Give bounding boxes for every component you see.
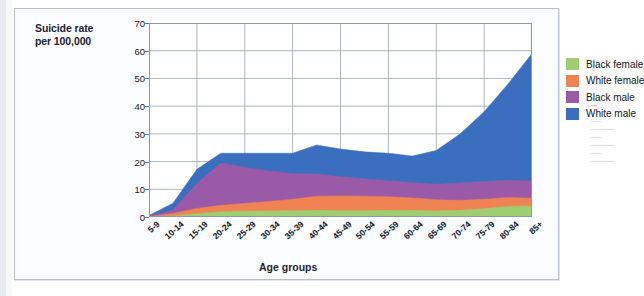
legend-label: Black female [586,59,643,70]
legend-swatch [566,75,579,87]
y-axis-ticks: 010203040506070 [115,23,145,217]
y-axis-title: Suicide rate per 100,000 [35,22,127,47]
legend-swatch [566,91,579,103]
x-tick-label: 50-54 [354,219,377,241]
legend-label: White female [586,75,644,86]
x-axis-ticks: 5-910-1415-1920-2425-2930-3435-3940-4445… [149,217,532,259]
margin-artifact-line [591,137,601,138]
legend-item: White male [566,106,644,123]
x-tick-label: 65-69 [426,219,449,241]
margin-artifact-line [591,153,601,154]
x-tick-label: 80-84 [498,219,521,241]
x-tick-label: 60-64 [402,219,425,241]
x-tick-label: 30-34 [258,219,281,241]
y-tick-label: 0 [119,212,145,223]
stacked-area-series [149,23,532,217]
margin-artifact-line [591,129,615,130]
x-tick-label: 5-9 [146,219,162,235]
legend-swatch [566,58,579,70]
y-tick-label: 70 [119,18,145,29]
y-axis-title-line2: per 100,000 [35,35,127,48]
legend-item: Black female [566,56,644,73]
legend-label: White male [586,108,636,119]
margin-artifact-line [591,145,615,146]
legend-item: Black male [566,89,644,106]
x-tick-label: 40-44 [306,219,329,241]
y-tick-label: 50 [119,73,145,84]
legend-item: White female [566,73,644,90]
x-tick-label: 55-59 [378,219,401,241]
y-tick-label: 20 [119,156,145,167]
y-tick-label: 30 [119,128,145,139]
y-tick-label: 10 [119,184,145,195]
chart-legend: Black female White female Black male Whi… [566,56,644,122]
y-axis-title-line1: Suicide rate [35,22,127,35]
x-tick-label: 15-19 [187,219,210,241]
chart-plot-area: Black female White female Black male Whi… [149,23,532,217]
x-axis-title: Age groups [259,261,317,273]
figure-frame: Suicide rate per 100,000 010203040506070… [14,8,559,280]
legend-label: Black male [586,92,635,103]
x-tick-label: 25-29 [234,219,257,241]
x-tick-label: 70-74 [450,219,473,241]
y-tick-label: 60 [119,45,145,56]
x-tick-label: 75-79 [474,219,497,241]
y-tick-mark [145,217,149,218]
x-tick-label: 35-39 [282,219,305,241]
y-tick-label: 40 [119,101,145,112]
x-tick-label: 45-49 [330,219,353,241]
x-tick-label: 10-14 [163,219,186,241]
legend-swatch [566,108,579,120]
margin-artifact-line [591,161,615,162]
x-tick-label: 20-24 [210,219,233,241]
